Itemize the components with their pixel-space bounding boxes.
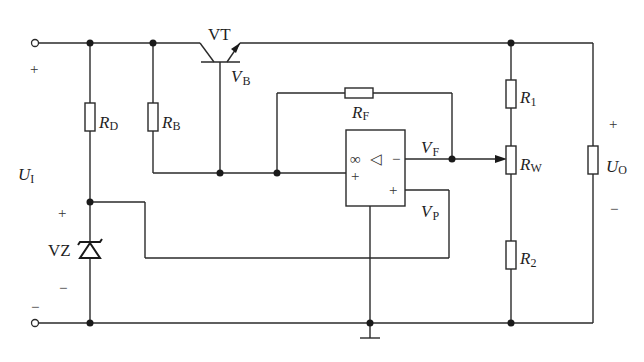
opamp-infinity: ∞ [350,151,361,167]
label-rd: RD [98,113,118,133]
label-vz: VZ [48,241,71,260]
input-terminal-negative [32,320,39,327]
resistor-rb [148,43,346,173]
label-vp: VP [421,202,439,223]
label-ui: UI [18,165,34,186]
zener-plus-sign: + [58,205,66,221]
output-load [588,43,598,323]
zener-minus-sign: − [59,280,67,296]
opamp-triangle: ◁ [370,151,382,167]
output-minus-sign: − [610,201,618,217]
label-vf: VF [421,138,439,159]
opamp-plus-in: + [351,168,359,184]
input-plus-sign: + [30,61,38,77]
voltage-divider [506,43,516,323]
circuit-diagram: VT VB RD RB RF R1 RW R2 VZ VF VP UI UO ∞… [0,0,644,362]
opamp-minus: − [392,151,400,167]
label-rw: RW [519,155,542,175]
opamp-plus-ref: + [389,182,397,198]
label-vt: VT [208,25,231,44]
resistor-rd [85,43,95,242]
junction-dots [87,40,515,327]
label-rf: RF [351,103,369,123]
zener-diode [78,239,102,323]
input-minus-sign: − [31,299,39,315]
label-r1: R1 [519,88,536,109]
label-rb: RB [161,113,180,133]
label-uo: UO [606,157,627,177]
input-terminal-positive [32,40,39,47]
label-r2: R2 [519,249,536,270]
output-plus-sign: + [609,116,617,132]
transistor-vt [200,43,240,173]
label-vb: VB [231,67,250,88]
